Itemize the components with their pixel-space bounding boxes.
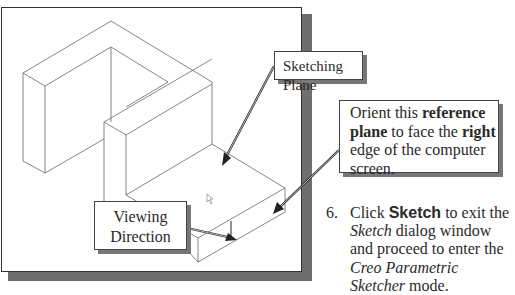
callout-text-line: Viewing	[95, 207, 186, 227]
callout-sketching-plane: Sketching Plane	[274, 51, 363, 80]
sketch-button-reference: Sketch	[389, 204, 441, 221]
callout-viewing-direction: Viewing Direction	[94, 201, 187, 250]
callout-text: to face the	[387, 123, 462, 140]
mouse-cursor-icon	[207, 194, 213, 204]
step-number: 6.	[326, 204, 338, 222]
callout-text: edge of the computer screen.	[350, 141, 486, 177]
step-text-part: to exit the	[441, 204, 509, 221]
step-text: Click Sketch to exit the Sketch dialog w…	[350, 204, 515, 295]
step-text-part: mode.	[405, 277, 449, 294]
callout-bold-text: right	[462, 123, 496, 140]
step-italic-text: Sketch	[350, 222, 392, 239]
callout-orient-reference-plane: Orient this reference plane to face the …	[339, 100, 499, 173]
step-text-part: Click	[350, 204, 389, 221]
callout-text: Orient this	[350, 104, 422, 121]
callout-text-line: Direction	[95, 227, 186, 247]
